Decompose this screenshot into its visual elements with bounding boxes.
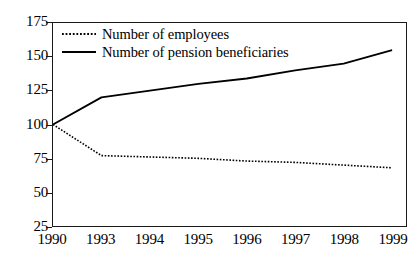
chart-legend: Number of employeesNumber of pension ben… [62, 26, 289, 60]
y-tick-mark [46, 90, 52, 91]
legend-swatch-dotted-icon [62, 29, 96, 39]
series-line-1 [53, 125, 392, 168]
y-tick-label: 50 [2, 185, 48, 200]
legend-item: Number of pension beneficiaries [62, 44, 289, 60]
x-tick-label: 1993 [86, 231, 115, 247]
line-chart: 175150125100755025 199019931994199519961… [0, 0, 415, 263]
legend-item: Number of employees [62, 26, 289, 42]
x-tick-label: 1999 [378, 231, 407, 247]
x-tick-label: 1995 [184, 231, 213, 247]
x-tick-label: 1994 [135, 231, 164, 247]
legend-label: Number of pension beneficiaries [102, 44, 289, 60]
y-tick-label: 150 [2, 48, 48, 63]
legend-swatch-solid-icon [62, 47, 96, 57]
x-tick-label: 1990 [37, 231, 66, 247]
y-tick-mark [46, 193, 52, 194]
x-axis-labels: 19901993199419951996199719981999 [52, 231, 407, 253]
x-tick-label: 1998 [330, 231, 359, 247]
y-tick-mark [46, 227, 52, 228]
legend-label: Number of employees [102, 26, 229, 42]
y-tick-label: 175 [2, 14, 48, 29]
y-tick-label: 75 [2, 151, 48, 166]
x-tick-label: 1997 [281, 231, 310, 247]
series-line-2 [53, 50, 392, 124]
y-tick-mark [46, 159, 52, 160]
x-tick-label: 1996 [232, 231, 261, 247]
y-axis-labels: 175150125100755025 [0, 0, 48, 263]
y-tick-mark [46, 125, 52, 126]
y-tick-label: 100 [2, 117, 48, 132]
y-tick-label: 125 [2, 82, 48, 97]
y-tick-mark [46, 56, 52, 57]
y-tick-mark [46, 22, 52, 23]
